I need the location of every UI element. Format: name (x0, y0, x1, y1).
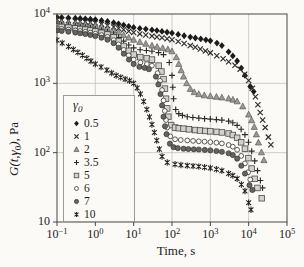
legend-item-gamma0-1: 1 (64, 129, 134, 142)
figure: 10410310210 10−1100101102103104105 G(t,γ… (0, 0, 304, 267)
y-axis-label-close: ), (6, 138, 21, 146)
gamma-subscript: 0 (13, 146, 23, 151)
legend-item-gamma0-10: 10 (64, 207, 134, 220)
x-tick-label: 104 (241, 228, 257, 242)
legend-item-label: 1 (84, 130, 90, 142)
legend-item-label: 3.5 (84, 156, 98, 168)
legend-item-label: 6 (84, 182, 90, 194)
legend-item-gamma0-0.5: 0.5 (64, 116, 134, 129)
x-axis-label: Time, s (157, 243, 196, 259)
legend-item-label: 2 (84, 143, 90, 155)
legend: γ0 0.5123.556710 (63, 95, 135, 222)
legend-title: γ0 (64, 96, 134, 113)
x-tick-label: 103 (202, 228, 218, 242)
y-axis-label: G(t,γ0), Pa (6, 122, 22, 176)
legend-items: 0.5123.556710 (64, 116, 134, 220)
y-tick-label: 10 (14, 215, 50, 228)
legend-item-gamma0-5: 5 (64, 168, 134, 181)
legend-item-label: 10 (84, 208, 96, 220)
legend-item-gamma0-3.5: 3.5 (64, 155, 134, 168)
x-tick-label: 101 (126, 228, 142, 242)
legend-item-label: 5 (84, 169, 90, 181)
x-tick-label: 10−1 (46, 228, 67, 242)
x-tick-label: 102 (164, 228, 180, 242)
legend-item-gamma0-7: 7 (64, 194, 134, 207)
legend-item-label: 7 (84, 195, 90, 207)
x-tick-label: 100 (87, 228, 103, 242)
y-axis-label-func: G(t, (6, 155, 21, 176)
legend-item-gamma0-6: 6 (64, 181, 134, 194)
legend-item-gamma0-2: 2 (64, 142, 134, 155)
gamma-symbol: γ (6, 150, 21, 155)
x-tick-label: 105 (279, 228, 295, 242)
y-tick-label: 103 (14, 76, 50, 90)
y-axis-unit: Pa (6, 122, 21, 138)
legend-gamma-subscript: 0 (78, 104, 83, 114)
y-tick-label: 104 (14, 7, 50, 21)
star-icon (69, 208, 84, 221)
legend-item-label: 0.5 (84, 117, 98, 129)
